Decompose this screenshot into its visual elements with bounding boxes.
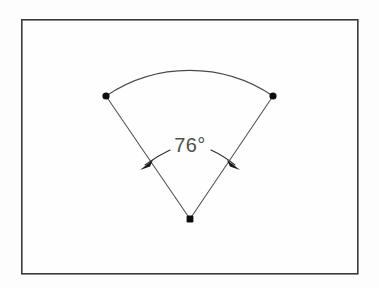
angle-value-label: 76° bbox=[174, 134, 206, 156]
left-endpoint-marker bbox=[102, 92, 109, 99]
vertex-point-marker bbox=[187, 216, 194, 223]
right-endpoint-marker bbox=[269, 92, 276, 99]
diagram-canvas: 76° bbox=[0, 0, 379, 288]
angle-diagram-figure: 76° bbox=[0, 0, 379, 288]
